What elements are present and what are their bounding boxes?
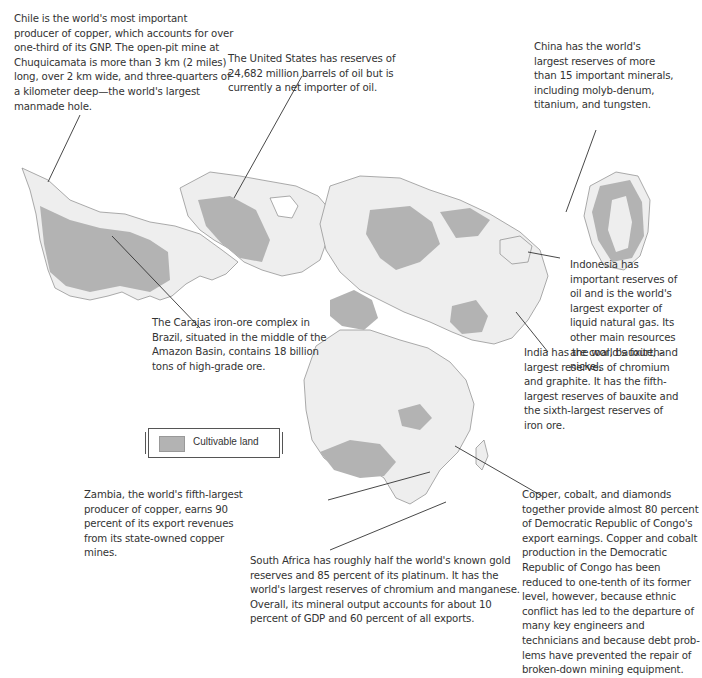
annotation-china: China has the world's largest reserves o…	[534, 40, 674, 113]
annotation-chile: Chile is the world's most important prod…	[14, 12, 234, 114]
cultivable-europe	[330, 290, 378, 330]
annotation-india: India has the world's fourth-largest res…	[524, 346, 684, 434]
legend-label-cultivable-land: Cultivable land	[193, 436, 259, 447]
annotation-united-states: The United States has reserves of 24,682…	[228, 52, 418, 96]
cultivable-land-swatch	[159, 436, 185, 452]
madagascar-landmass	[476, 440, 488, 470]
annotation-south-africa: South Africa has roughly half the world'…	[250, 554, 522, 627]
map-legend: Cultivable land	[148, 428, 280, 458]
annotation-zambia: Zambia, the world's fifth-largest produc…	[84, 488, 258, 561]
annotation-brazil: The Carajas iron-ore complex in Brazil, …	[152, 316, 332, 374]
annotation-drc: Copper, cobalt, and diamonds together pr…	[522, 488, 702, 678]
